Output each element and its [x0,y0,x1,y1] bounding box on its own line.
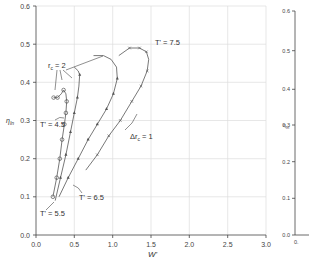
y-tick-0.6: 0.6 [20,3,30,10]
x-tick-2.5: 2.5 [223,241,233,248]
markers-triangles [59,73,119,179]
y-tick-0.4: 0.4 [20,79,30,86]
annotation-t-5.5: T' = 5.5 [40,209,65,218]
x-tick-0.0: 0.0 [31,241,41,248]
right-y-tick-0.0: 0.0 [282,232,290,238]
x-tick-labels: 0.0 0.5 1.0 1.5 2.0 2.5 3.0 [31,241,271,248]
x-tick-1.0: 1.0 [108,241,118,248]
annotation-delta-rc-1: Δrc = 1 [130,132,153,142]
annotation-rc-2: rc = 2 [48,61,66,71]
y-tick-labels: 0.6 0.5 0.4 0.3 0.2 0.1 0.0 [20,3,30,239]
y-tick-0.3: 0.3 [20,117,30,124]
right-panel-axis [292,11,309,235]
y-tick-0.0: 0.0 [20,232,30,239]
axes [33,6,266,238]
x-tick-0.5: 0.5 [69,241,79,248]
x-tick-1.5: 1.5 [146,241,156,248]
curve-t-5.5 [55,67,79,201]
grid-lines [36,6,266,235]
right-y-tick-0.6: 0.6 [282,8,290,14]
curve-t-6.5 [59,56,117,197]
chart-figure: 0.6 0.5 0.4 0.3 0.2 0.1 0.0 0.0 0.5 1.0 … [0,0,309,261]
annotation-t-7.5: T' = 7.5 [155,38,180,47]
right-y-tick-0.1: 0.1 [282,195,290,201]
right-y-tick-0.5: 0.5 [282,48,290,54]
y-tick-0.2: 0.2 [20,155,30,162]
annotation-t-6.5: T' = 6.5 [79,193,104,202]
right-y-tick-0.4: 0.4 [282,86,290,92]
right-x-tick-0: 0. [294,239,299,245]
y-axis-label: ηIn [6,117,14,126]
arrow-delta-rc [125,114,137,130]
x-tick-3.0: 3.0 [261,241,271,248]
x-tick-2.0: 2.0 [184,241,194,248]
curve-t-7.5 [86,48,149,170]
y-tick-0.1: 0.1 [20,193,30,200]
annotation-t-4.5: T' = 4.5 [40,120,65,129]
y-tick-0.5: 0.5 [20,41,30,48]
right-y-tick-0.2: 0.2 [282,159,290,165]
x-axis-label: W' [148,250,158,259]
